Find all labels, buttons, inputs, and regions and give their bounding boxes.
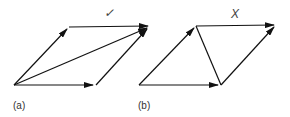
panel-a-label: (a) bbox=[13, 100, 25, 111]
panel-b-diagram bbox=[139, 25, 274, 85]
cross-mark-icon: X bbox=[231, 7, 239, 21]
panel-b-label: (b) bbox=[138, 100, 150, 111]
panel-a-diagram bbox=[14, 26, 148, 85]
checkmark-icon: ✓ bbox=[104, 6, 114, 20]
